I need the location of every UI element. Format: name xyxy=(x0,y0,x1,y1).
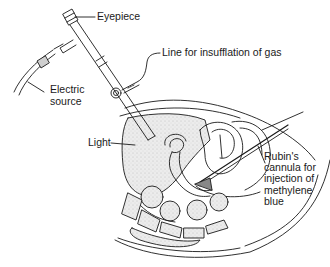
label-rubins-line3: injection of xyxy=(264,173,316,184)
label-eyepiece: Eyepiece xyxy=(97,11,140,23)
laparoscopy-illustration xyxy=(0,0,330,267)
label-light: Light xyxy=(88,137,111,149)
label-electric-source: Electric source xyxy=(50,84,84,107)
label-rubins-line5: blue xyxy=(264,196,316,207)
label-rubins-cannula: Rubin's cannula for injection of methyle… xyxy=(264,151,316,207)
insufflation-line xyxy=(122,53,160,90)
label-electric-source-line2: source xyxy=(50,96,84,108)
label-electric-source-line1: Electric xyxy=(50,84,84,96)
label-insufflation: Line for insufflation of gas xyxy=(162,47,281,59)
